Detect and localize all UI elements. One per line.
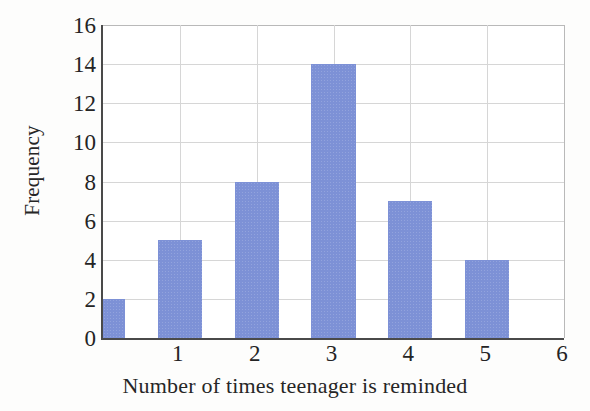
x-axis-tick-label: 1	[158, 341, 198, 366]
y-axis-tick-label: 10	[56, 131, 96, 154]
y-axis-title: Frequency	[14, 0, 50, 340]
y-axis-tick-label: 2	[56, 287, 96, 310]
y-axis-tick-label: 6	[56, 209, 96, 232]
bar	[103, 299, 125, 338]
chart-figure: Frequency 0246810121416 123456 Number of…	[0, 0, 590, 411]
x-axis-title: Number of times teenager is reminded	[0, 373, 590, 399]
bar	[388, 201, 432, 338]
bar	[465, 260, 509, 338]
x-axis-tick-labels: 123456	[0, 341, 590, 373]
y-axis-title-text: Frequency	[20, 125, 45, 215]
bar	[311, 64, 355, 338]
y-axis-tick-label: 12	[56, 92, 96, 115]
y-axis-tick-label: 16	[56, 14, 96, 37]
x-axis-tick-label: 4	[388, 341, 428, 366]
x-axis-tick-label: 2	[235, 341, 275, 366]
y-axis-tick-label: 4	[56, 248, 96, 271]
plot-area	[101, 25, 564, 340]
bar	[235, 182, 279, 339]
bar	[158, 240, 202, 338]
y-axis-tick-label: 14	[56, 53, 96, 76]
gridline-vertical	[564, 25, 565, 338]
x-axis-tick-label: 5	[465, 341, 505, 366]
x-axis-tick-label: 6	[542, 341, 582, 366]
y-axis-tick-label: 8	[56, 170, 96, 193]
x-axis-tick-label: 3	[312, 341, 352, 366]
